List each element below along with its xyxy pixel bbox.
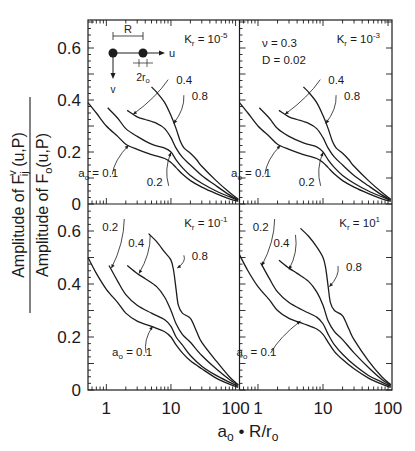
curve-label: 0.8 [192,250,208,262]
curve-a0-0.2 [261,263,391,386]
curve-label: 0.4 [328,74,345,86]
y-tick-label: 0.4 [57,91,81,110]
arrowhead-icon [326,119,330,123]
y-axis-label: Amplitude of Fvij (u,P)Amplitude of Fo(u… [6,97,54,313]
leader-line [133,80,168,115]
curve-a0-0.8 [303,87,390,199]
x-axis-label: ao • R/ro [218,422,279,444]
figure: 00.20.40.6Kr = 10-5ao = 0.10.20.40.8Kr =… [0,0,415,451]
panel-top-left: 00.20.40.6Kr = 10-5ao = 0.10.20.40.8 [57,20,238,214]
curve-label: 0.8 [344,90,360,102]
kr-label: Kr = 101 [339,215,380,232]
x-tick-label: 100 [374,399,402,418]
y-tick-label: 0 [72,195,81,214]
chart-svg: 00.20.40.6Kr = 10-5ao = 0.10.20.40.8Kr =… [0,0,415,451]
nu-param-label: ν = 0.3 [262,37,297,49]
leader-line [285,80,320,115]
leader-line [177,255,184,268]
pile-node-2 [139,49,148,58]
curve-label: 0.2 [253,221,269,233]
curve-label: 0.4 [273,237,290,249]
panel-top-right: Kr = 10-3ao = 0.10.20.40.8 [231,20,392,204]
curve-label: 0.2 [299,176,315,188]
curve-a0-0.8 [152,87,239,199]
kr-label: Kr = 10-3 [337,31,381,48]
x-tick-label: 100 [221,399,249,418]
curve-label: 0.8 [346,261,362,273]
kr-label: Kr = 10-5 [184,31,228,48]
y-tick-label: 0.2 [57,328,81,347]
x-tick-label: 1 [253,399,262,418]
pile-node-1 [109,49,118,58]
u-label: u [169,47,175,59]
y-label-numerator: Amplitude of Fvij (u,P) [6,132,30,278]
leader-line [319,153,323,186]
curve-label: 0.4 [128,237,145,249]
r-label: R [124,23,132,35]
y-tick-label: 0.6 [57,39,81,58]
panel-bottom-left: 00.20.40.6110100Kr = 10-1ao = 0.10.20.40… [57,211,249,418]
curve-a0-0.2 [109,265,238,386]
curve-label: 0.2 [102,221,118,233]
leader-line [326,95,336,123]
damping-param-label: D = 0.02 [262,54,306,66]
curve-label: 0.8 [192,90,208,102]
x-tick-label: 10 [162,399,181,418]
x-tick-label: 1 [102,399,111,418]
x-tick-label: 10 [314,399,333,418]
curve-a0-0.8 [300,228,390,384]
arrowhead-icon [174,119,178,123]
leader-line [289,235,296,270]
kr-label: Kr = 10-1 [184,215,228,232]
y-tick-label: 0.2 [57,143,81,162]
v-label: v [111,84,116,95]
curve-a0-0.4 [279,260,391,385]
y-tick-label: 0.6 [57,222,81,241]
curve-a0-0.1 [88,103,238,202]
r0-label: 2ro [136,71,150,85]
leader-line [174,95,184,123]
curve-label: 0.2 [147,176,163,188]
y-tick-label: 0.4 [57,275,81,294]
arrowhead-icon [285,111,289,115]
arrow-right-icon [159,51,165,56]
curve-a0-0.1 [240,103,391,202]
y-tick-label: 0 [72,381,81,400]
panel-bottom-right: 110100Kr = 101ao = 0.10.20.40.8 [237,211,403,418]
y-label-denominator: Amplitude of Fo(u,P) [34,133,54,277]
curve-label: 0.4 [176,74,193,86]
leader-line [167,153,171,186]
arrow-down-icon [111,73,116,79]
